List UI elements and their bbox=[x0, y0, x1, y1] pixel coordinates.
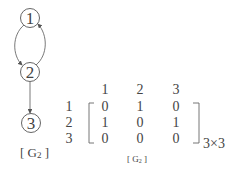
matrix-cell: 0 bbox=[137, 115, 144, 130]
col-header: 1 bbox=[102, 82, 109, 97]
matrix-cell: 0 bbox=[102, 131, 109, 146]
graph-and-matrix-figure: 1 2 3 [ G2 ] 1 2 3 1 2 3 0 1 0 1 0 1 bbox=[0, 0, 244, 177]
row-header: 3 bbox=[66, 131, 73, 146]
row-header: 2 bbox=[66, 115, 73, 130]
col-header: 2 bbox=[137, 82, 144, 97]
edge-2-to-1 bbox=[36, 24, 45, 65]
node-3: 3 bbox=[22, 114, 41, 134]
right-bracket bbox=[193, 103, 199, 143]
matrix-row: 0 1 0 bbox=[102, 99, 180, 114]
matrix-size-label: 3×3 bbox=[203, 136, 225, 151]
node-2-label: 2 bbox=[26, 63, 35, 82]
adjacency-matrix: 1 2 3 1 2 3 0 1 0 1 0 1 0 0 0 3×3 [ G2 ] bbox=[66, 82, 225, 164]
matrix-row: 0 0 0 bbox=[102, 131, 180, 146]
edge-1-to-2 bbox=[15, 25, 24, 65]
node-1: 1 bbox=[21, 9, 40, 29]
matrix-cell: 0 bbox=[137, 131, 144, 146]
matrix-cell: 1 bbox=[137, 99, 144, 114]
matrix-cell: 0 bbox=[102, 99, 109, 114]
matrix-cell: 0 bbox=[173, 131, 180, 146]
node-3-label: 3 bbox=[27, 114, 36, 133]
matrix-row: 1 0 1 bbox=[102, 115, 180, 130]
col-header: 3 bbox=[173, 82, 180, 97]
matrix-caption: [ G2 ] bbox=[127, 154, 147, 164]
matrix-cell: 1 bbox=[173, 115, 180, 130]
matrix-cell: 0 bbox=[173, 99, 180, 114]
matrix-cell: 1 bbox=[102, 115, 109, 130]
left-bracket bbox=[89, 103, 94, 143]
node-2: 2 bbox=[21, 63, 40, 83]
directed-graph: 1 2 3 [ G2 ] bbox=[15, 9, 49, 161]
graph-caption: [ G2 ] bbox=[20, 145, 49, 160]
row-header: 1 bbox=[66, 99, 73, 114]
node-1-label: 1 bbox=[26, 9, 35, 28]
